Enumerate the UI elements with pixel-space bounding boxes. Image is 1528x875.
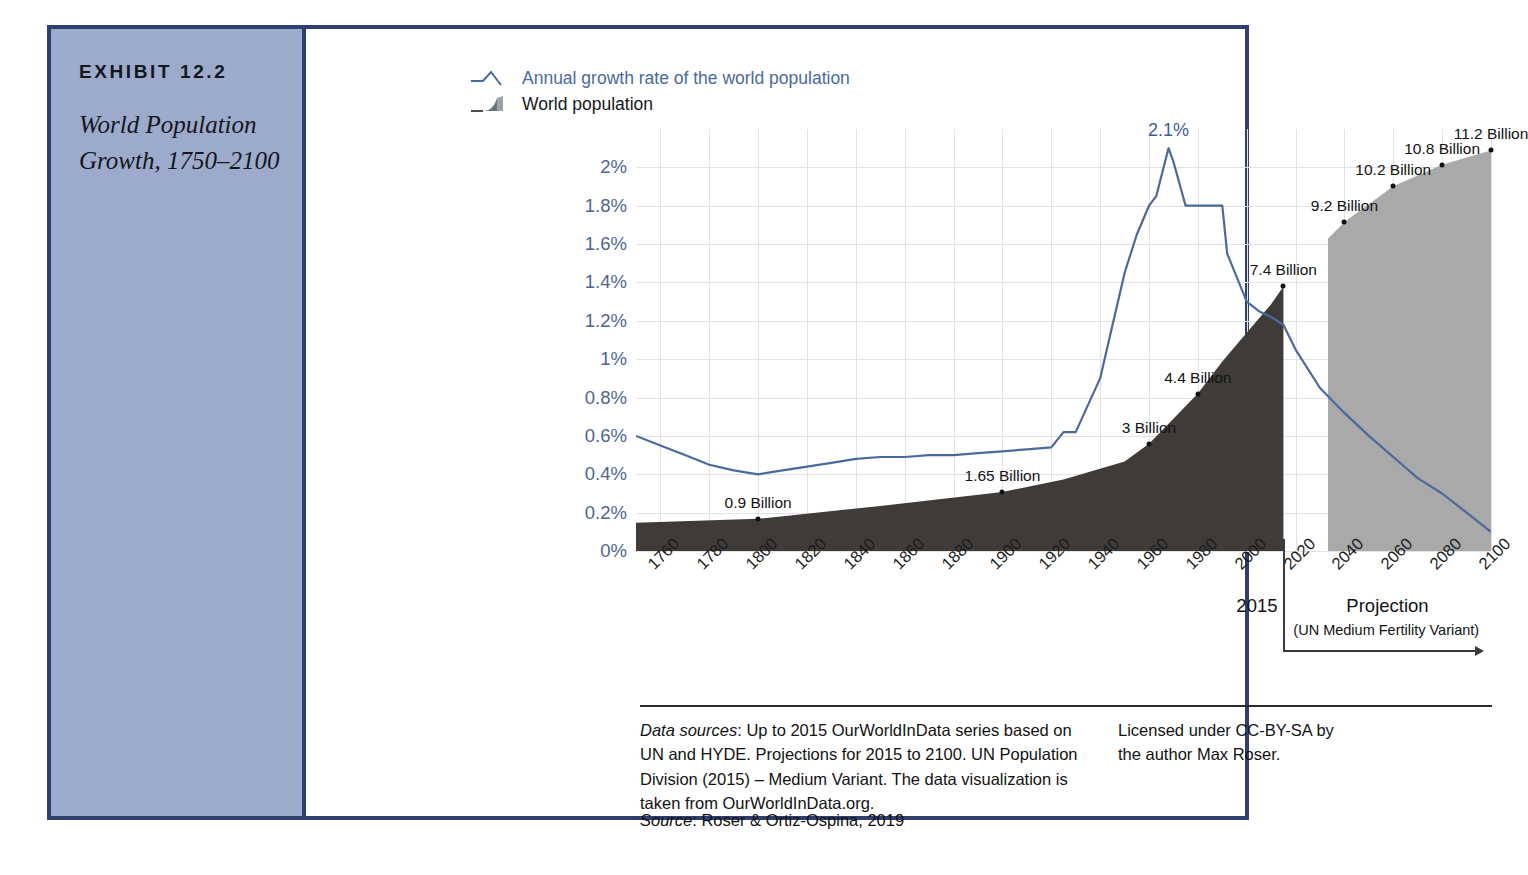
exhibit-number-label: EXHIBIT 12.2 <box>79 61 227 83</box>
annotation-dot <box>1147 441 1152 446</box>
arrow-right-icon <box>1475 646 1484 656</box>
annotation-label: 3 Billion <box>1122 419 1176 437</box>
projection-label: Projection <box>1346 595 1428 617</box>
plot-area: 0%0.2%0.4%0.6%0.8%1%1.2%1.4%1.6%1.8%2% 1… <box>636 129 1491 551</box>
exhibit-panel: EXHIBIT 12.2 World Population Growth, 17… <box>47 25 1249 820</box>
projection-bracket: 2015 Projection (UN Medium Fertility Var… <box>636 551 1491 671</box>
annotation-dot <box>1195 391 1200 396</box>
annotation-label: 1.65 Billion <box>965 467 1041 485</box>
annotation-label: 4.4 Billion <box>1164 369 1231 387</box>
chart-region: Annual growth rate of the world populati… <box>310 29 1245 816</box>
exhibit-sidebar: EXHIBIT 12.2 World Population Growth, 17… <box>51 29 306 816</box>
line-sample-icon <box>469 68 511 88</box>
annotation-dot <box>1342 219 1347 224</box>
annotation-label: 7.4 Billion <box>1250 261 1317 279</box>
y-axis-tick-label: 1% <box>600 348 627 370</box>
growth-rate-line-series <box>636 129 1491 551</box>
y-axis-tick-label: 0.2% <box>585 502 627 524</box>
legend-label-population: World population <box>522 94 653 115</box>
exhibit-title: World Population Growth, 1750–2100 <box>79 107 289 178</box>
projection-sublabel: (UN Medium Fertility Variant) <box>1293 622 1479 638</box>
y-axis-tick-label: 1.4% <box>585 271 627 293</box>
y-axis-tick-label: 1.6% <box>585 233 627 255</box>
y-axis-tick-label: 0% <box>600 540 627 562</box>
source-text: : Roser & Ortiz-Ospina, 2019 <box>692 811 904 829</box>
chart-legend: Annual growth rate of the world populati… <box>469 65 850 117</box>
data-sources-note: Data sources: Up to 2015 OurWorldInData … <box>640 718 1092 816</box>
annotation-dot <box>1281 284 1286 289</box>
source-label: Source <box>640 811 692 829</box>
y-axis-tick-label: 1.2% <box>585 310 627 332</box>
data-sources-label: Data sources <box>640 721 737 739</box>
y-axis-tick-label: 0.8% <box>585 387 627 409</box>
gridline-vertical <box>1491 129 1492 551</box>
annotation-label: 2.1% <box>1148 120 1189 141</box>
area-sample-icon <box>469 94 511 114</box>
annotation-label: 9.2 Billion <box>1311 197 1378 215</box>
annotation-dot <box>1489 148 1494 153</box>
annotation-label: 0.9 Billion <box>725 494 792 512</box>
footer-divider <box>640 705 1492 707</box>
legend-label-growth-rate: Annual growth rate of the world populati… <box>522 68 850 89</box>
license-note: Licensed under CC-BY-SA by the author Ma… <box>1118 718 1348 767</box>
annotation-dot <box>1000 489 1005 494</box>
projection-start-year: 2015 <box>1236 595 1277 617</box>
y-axis-tick-label: 0.4% <box>585 463 627 485</box>
annotation-label: 11.2 Billion <box>1454 125 1528 143</box>
y-axis-tick-label: 2% <box>600 156 627 178</box>
legend-item-growth-rate: Annual growth rate of the world populati… <box>469 65 850 91</box>
y-axis-tick-label: 0.6% <box>585 425 627 447</box>
annotation-label: 10.2 Billion <box>1355 161 1431 179</box>
annotation-dot <box>1440 162 1445 167</box>
annotation-dot <box>1391 184 1396 189</box>
projection-divider-line <box>1283 539 1285 651</box>
annotation-dot <box>756 516 761 521</box>
projection-arrow-line <box>1283 650 1477 652</box>
source-note: Source: Roser & Ortiz-Ospina, 2019 <box>640 808 1140 832</box>
legend-item-population: World population <box>469 91 850 117</box>
y-axis-tick-label: 1.8% <box>585 195 627 217</box>
